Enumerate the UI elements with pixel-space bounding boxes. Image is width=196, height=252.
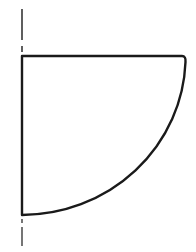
quarter-disc-diagram	[0, 0, 196, 252]
